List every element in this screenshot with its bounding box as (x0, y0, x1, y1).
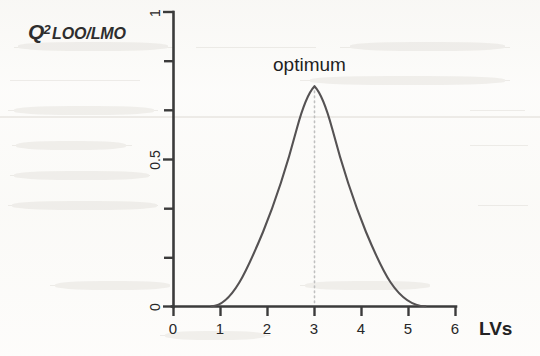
x-tick-label-0: 0 (163, 320, 183, 337)
x-axis-title: LVs (479, 318, 512, 340)
chart-canvas (0, 0, 540, 356)
y-axis-title-superscript: 2 (44, 22, 51, 37)
x-tick-label-5: 5 (398, 320, 418, 337)
x-tick-label-4: 4 (351, 320, 371, 337)
x-tick-label-3: 3 (304, 320, 324, 337)
x-tick-label-1: 1 (210, 320, 230, 337)
y-tick-label-0: 0 (147, 284, 163, 330)
x-tick-label-2: 2 (257, 320, 277, 337)
q2-curve (212, 86, 426, 306)
x-tick-label-6: 6 (445, 320, 465, 337)
y-tick-label-0-5: 0.5 (147, 131, 163, 189)
y-axis-title-base: Q (28, 20, 45, 43)
chart-figure: Q2LOO/LMO 1 0.5 0 0 1 2 3 4 5 6 LVs opti… (0, 0, 540, 356)
y-tick-label-1: 1 (147, 0, 163, 36)
optimum-annotation-label: optimum (273, 54, 346, 76)
y-axis-title-subscript: LOO/LMO (52, 25, 126, 42)
y-axis-title: Q2LOO/LMO (28, 20, 126, 44)
